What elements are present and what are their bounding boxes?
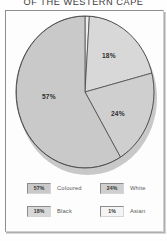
legend-swatch-asian: 1%: [100, 206, 124, 217]
legend-label-white: White: [130, 185, 146, 191]
legend-swatch-black: 18%: [27, 206, 51, 217]
pie-label-black: 18%: [102, 52, 116, 59]
pie-chart-figure: OF THE WESTERN CAPE 57% 1: [0, 0, 167, 241]
legend-item-coloured[interactable]: 57% Coloured: [27, 182, 82, 194]
pie-label-coloured: 57%: [42, 93, 56, 100]
legend-item-asian[interactable]: 1% Asian: [100, 205, 145, 217]
legend-item-black[interactable]: 18% Black: [27, 205, 72, 217]
legend: 57% Coloured 24% White 18% Black 1% Asia…: [16, 182, 156, 226]
panel-shadow-right: [164, 12, 166, 234]
pie-svg: [14, 15, 156, 175]
legend-label-asian: Asian: [130, 208, 145, 214]
legend-swatch-white: 24%: [100, 183, 124, 194]
legend-swatch-coloured: 57%: [27, 183, 51, 194]
panel-shadow-bottom: [6, 232, 165, 234]
pie-label-white: 24%: [111, 110, 125, 117]
legend-label-black: Black: [57, 208, 72, 214]
chart-title: OF THE WESTERN CAPE: [0, 0, 167, 8]
legend-label-coloured: Coloured: [57, 185, 82, 191]
legend-item-white[interactable]: 24% White: [100, 182, 146, 194]
pie-graphic: 57% 18% 24% 1%: [14, 15, 156, 175]
